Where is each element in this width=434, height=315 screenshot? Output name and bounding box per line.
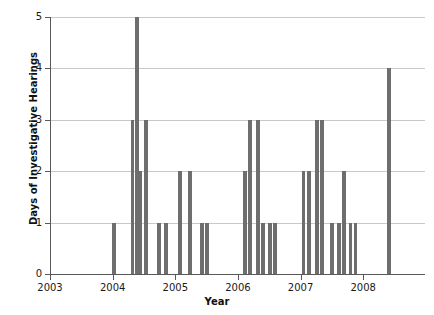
x-tick-label: 2007 — [281, 282, 321, 294]
bar — [307, 171, 311, 274]
bar-chart: 012345 200320042005200620072008 Days of … — [0, 0, 434, 315]
bar — [354, 223, 358, 274]
bar — [256, 120, 260, 274]
bar — [273, 223, 277, 274]
bar — [268, 223, 272, 274]
bar — [248, 120, 252, 274]
x-tick-label: 2006 — [218, 282, 258, 294]
x-tick — [50, 275, 51, 280]
bar — [188, 171, 192, 274]
x-tick-label: 2008 — [343, 282, 383, 294]
gridline — [51, 223, 425, 224]
y-axis-title: Days of Investigative Hearings — [28, 49, 39, 229]
gridline — [51, 120, 425, 121]
x-tick — [113, 275, 114, 280]
bar — [178, 171, 182, 274]
bar — [205, 223, 209, 274]
bar — [387, 68, 391, 274]
x-tick-label: 2004 — [93, 282, 133, 294]
bar — [342, 171, 346, 274]
bar — [302, 171, 306, 274]
x-tick — [175, 275, 176, 280]
bar — [330, 223, 334, 274]
bar — [112, 223, 116, 274]
bar — [320, 120, 324, 274]
bar — [144, 120, 148, 274]
bar — [164, 223, 168, 274]
bar — [243, 171, 247, 274]
x-tick-label: 2003 — [30, 282, 70, 294]
bar — [337, 223, 341, 274]
bar — [157, 223, 161, 274]
x-tick — [238, 275, 239, 280]
x-tick — [363, 275, 364, 280]
gridline — [51, 171, 425, 172]
bar — [139, 171, 143, 274]
x-tick — [301, 275, 302, 280]
bar — [131, 120, 135, 274]
y-tick-label: 0 — [22, 269, 42, 279]
gridline — [51, 68, 425, 69]
bar — [349, 223, 353, 274]
x-axis-title: Year — [0, 296, 434, 307]
bar — [200, 223, 204, 274]
y-tick-label: 5 — [22, 12, 42, 22]
plot-area — [50, 17, 425, 275]
x-tick-label: 2005 — [155, 282, 195, 294]
gridline — [51, 17, 425, 18]
bar — [261, 223, 265, 274]
bar — [315, 120, 319, 274]
